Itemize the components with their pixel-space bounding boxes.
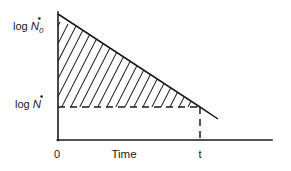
n-symbol-mid: N <box>33 98 42 110</box>
hatched-decay-area <box>2 22 236 164</box>
n-subscript-top: 0 <box>39 26 44 35</box>
x-time-t-label: t <box>198 148 201 160</box>
n-dot-accent-mid <box>40 95 43 98</box>
y-axis-mid-label: log N <box>15 95 43 110</box>
decay-figure: log N0 log N 0 Time t <box>0 0 291 171</box>
chart-canvas: log N0 log N 0 Time t <box>0 0 291 171</box>
svg-text:log N: log N <box>15 98 42 110</box>
log-prefix-mid: log <box>15 98 30 110</box>
n-dot-accent-top <box>38 17 41 20</box>
x-origin-label: 0 <box>54 148 60 160</box>
log-prefix-top: log <box>13 20 28 32</box>
x-axis-title: Time <box>111 148 136 160</box>
svg-text:log N0: log N0 <box>13 20 44 35</box>
y-axis-top-label: log N0 <box>13 17 44 35</box>
